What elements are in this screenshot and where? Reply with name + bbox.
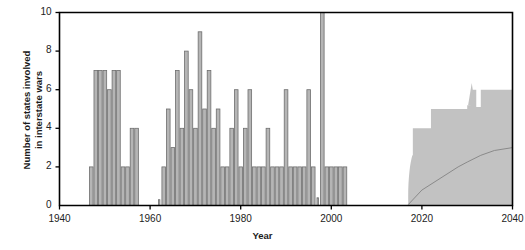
bar (108, 90, 112, 206)
bar (253, 167, 257, 206)
bar (158, 200, 159, 206)
bar (99, 70, 103, 205)
bar (239, 167, 243, 206)
x-tick-label: 2040 (488, 213, 525, 224)
bar (266, 128, 270, 205)
bar (207, 70, 211, 205)
bar (280, 167, 284, 206)
bar (275, 167, 279, 206)
x-tick-label: 1980 (216, 213, 266, 224)
bar (135, 128, 139, 205)
bar (221, 167, 225, 206)
bar (311, 167, 315, 206)
x-tick-label: 1940 (35, 213, 85, 224)
bar (166, 109, 170, 206)
bar (121, 167, 125, 206)
bar (130, 128, 134, 205)
x-tick-label: 2000 (306, 213, 356, 224)
bar (302, 167, 306, 206)
bar (225, 167, 229, 206)
bar (112, 70, 116, 205)
y-tick-label: 4 (30, 121, 52, 132)
bar (117, 70, 121, 205)
bar (289, 167, 293, 206)
y-axis-label-line1: Number of states involved (21, 51, 32, 170)
bar (271, 167, 275, 206)
bar (257, 167, 261, 206)
x-tick-label: 2020 (397, 213, 447, 224)
bar (89, 167, 93, 206)
y-tick-label: 8 (30, 44, 52, 55)
bar (212, 128, 216, 205)
chart-figure: Number of states involved in interstate … (0, 0, 525, 250)
bar (194, 128, 198, 205)
x-axis-label: Year (0, 230, 525, 241)
bar (317, 198, 318, 206)
bar (230, 128, 234, 205)
bar (334, 167, 338, 206)
bar (339, 167, 343, 206)
bars-group (89, 13, 346, 206)
bar (284, 90, 288, 206)
bar (307, 90, 311, 206)
bar (262, 167, 266, 206)
projection-band (408, 90, 512, 206)
x-tick-label: 1960 (125, 213, 175, 224)
y-tick-label: 2 (30, 160, 52, 171)
bar (293, 167, 297, 206)
bar (320, 13, 324, 206)
bar (185, 51, 189, 205)
bar (243, 128, 247, 205)
bar (198, 32, 202, 206)
bar (126, 167, 130, 206)
bar (176, 70, 180, 205)
bar (171, 148, 175, 206)
bar (94, 70, 98, 205)
bar (216, 109, 220, 206)
bar (203, 109, 207, 206)
bar (162, 167, 166, 206)
bar (189, 90, 193, 206)
y-tick-label: 0 (30, 199, 52, 210)
bar (330, 167, 334, 206)
bar (343, 167, 347, 206)
bar (298, 167, 302, 206)
y-tick-label: 6 (30, 83, 52, 94)
bar (180, 128, 184, 205)
y-tick-label: 10 (30, 6, 52, 17)
bar (325, 167, 329, 206)
bar (248, 90, 252, 206)
bar (103, 70, 107, 205)
bar (234, 90, 238, 206)
